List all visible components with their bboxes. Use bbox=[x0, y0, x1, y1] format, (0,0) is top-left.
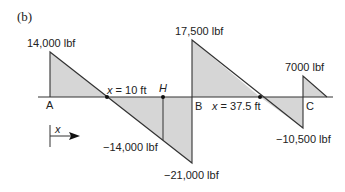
label-point-h: H bbox=[159, 83, 167, 94]
label-v-h: −14,000 lbf bbox=[103, 142, 158, 153]
label-v-b-left: −21,000 lbf bbox=[164, 170, 219, 181]
zero-point-2 bbox=[258, 95, 262, 99]
label-v-b-right: 17,500 lbf bbox=[175, 26, 223, 37]
label-v-c-right: 7000 lbf bbox=[285, 62, 324, 73]
h-point bbox=[161, 95, 165, 99]
zero1-rest: = 10 ft bbox=[113, 84, 147, 96]
shear-diagram bbox=[0, 0, 345, 192]
label-v-c-left: −10,500 lbf bbox=[276, 134, 331, 145]
zero2-rest: = 37.5 ft bbox=[218, 100, 261, 112]
label-point-c: C bbox=[306, 101, 314, 112]
label-point-a: A bbox=[46, 100, 53, 111]
label-zero-1: x = 10 ft bbox=[107, 85, 146, 96]
label-zero-2: x = 37.5 ft bbox=[212, 101, 261, 112]
label-v-a: 14,000 lbf bbox=[27, 38, 75, 49]
panel-label: (b) bbox=[17, 10, 32, 23]
label-point-b: B bbox=[195, 101, 202, 112]
label-axis-x: x bbox=[55, 124, 61, 135]
